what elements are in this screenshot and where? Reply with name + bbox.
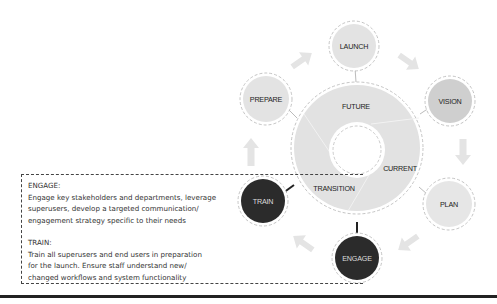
node-prepare: PREPARE [240, 73, 292, 125]
arrow-plan-to-engage [394, 230, 423, 257]
node-plan: PLAN [423, 178, 475, 230]
train-line-2: for the launch. Ensure staff understand … [28, 260, 363, 272]
arrow-vision-to-plan [455, 139, 471, 165]
train-line-1: Train all superusers and end users in pr… [28, 249, 363, 261]
train-line-3: changed workflows and system functionali… [28, 272, 363, 284]
train-heading: TRAIN: [28, 237, 363, 249]
node-label-prepare: PREPARE [250, 95, 283, 104]
arrow-launch-to-vision [395, 49, 424, 76]
engage-line-2: superusers, develop a targeted communica… [28, 203, 363, 215]
node-launch: LAUNCH [329, 21, 379, 71]
bottom-divider [0, 295, 497, 298]
segment-label-current: CURRENT [383, 164, 418, 173]
engage-line-1: Engage key stakeholders and departments,… [28, 192, 363, 204]
node-label-launch: LAUNCH [340, 42, 368, 51]
node-vision: VISION [425, 76, 475, 126]
node-label-vision: VISION [438, 97, 461, 106]
description-callout: ENGAGE: Engage key stakeholders and depa… [21, 174, 363, 284]
spacer [28, 226, 363, 237]
segment-label-future: FUTURE [342, 102, 370, 111]
node-label-plan: PLAN [440, 200, 458, 209]
engage-heading: ENGAGE: [28, 180, 363, 192]
arrow-train-to-prepare [243, 138, 259, 166]
engage-line-3: engagement strategy specific to their ne… [28, 215, 363, 227]
ring-hole [329, 122, 385, 178]
arrow-prepare-to-launch [288, 47, 317, 74]
